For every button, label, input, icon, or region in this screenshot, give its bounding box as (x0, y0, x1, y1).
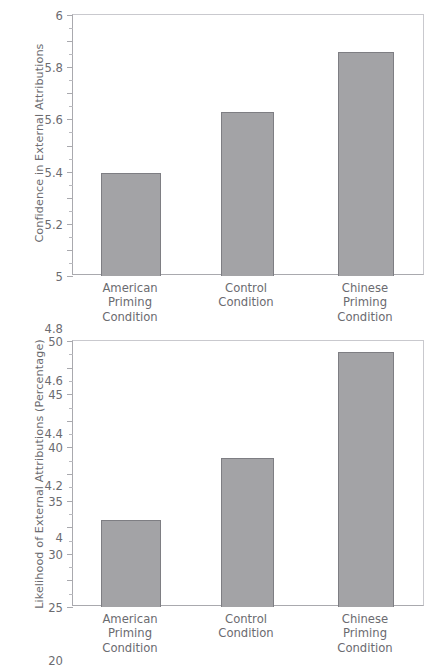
y-axis-minor-tick (69, 461, 73, 462)
y-axis-minor-tick (69, 132, 73, 133)
bar (101, 520, 161, 607)
y-axis-tick: 50 (67, 341, 73, 342)
y-axis-tick: 6 (67, 15, 73, 16)
y-axis-tick: 5.4 (67, 93, 73, 94)
y-axis-tick: 4 (67, 276, 73, 277)
x-axis-category-label: American Priming Condition (70, 612, 190, 655)
y-axis-tick: 5.8 (67, 41, 73, 42)
chart-confidence: Confidence in External Attributions 44.2… (0, 0, 444, 334)
y-axis-minor-tick (69, 514, 73, 515)
y-axis-minor-tick (69, 487, 73, 488)
bar (338, 352, 394, 607)
y-axis-tick-label: 5 (56, 270, 63, 284)
x-axis-category-label: Control Condition (186, 281, 306, 310)
y-axis-tick: 15 (67, 527, 73, 528)
bar (338, 52, 394, 276)
y-axis-minor-tick (69, 237, 73, 238)
y-axis-minor-tick (69, 28, 73, 29)
y-axis-tick: 10 (67, 554, 73, 555)
y-axis-tick-label: 30 (48, 548, 63, 562)
x-axis-category-label: Chinese Priming Condition (305, 612, 425, 655)
y-axis-minor-tick (69, 80, 73, 81)
y-axis-minor-tick (69, 408, 73, 409)
y-axis-tick: 40 (67, 394, 73, 395)
y-axis-tick: 4.2 (67, 250, 73, 251)
y-axis-minor-tick (69, 54, 73, 55)
y-axis-tick-label: 6 (56, 9, 63, 23)
y-axis-tick-label: 45 (48, 388, 63, 402)
y-axis-tick-label: 20 (48, 654, 63, 667)
y-axis-tick: 45 (67, 368, 73, 369)
x-axis-category-label: Control Condition (186, 612, 306, 641)
y-axis-tick: 4.4 (67, 224, 73, 225)
y-axis-minor-tick (69, 594, 73, 595)
x-axis-category-label: American Priming Condition (70, 281, 190, 324)
y-axis-minor-tick (69, 106, 73, 107)
y-axis-minor-tick (69, 354, 73, 355)
y-axis-tick-label: 5.8 (45, 61, 63, 75)
plot-area-confidence: 44.24.44.64.855.25.45.65.86 (72, 14, 424, 275)
y-axis-tick-label: 5.4 (45, 166, 63, 180)
y-axis-minor-tick (69, 211, 73, 212)
chart-likelihood: Likelihood of External Attributions (Per… (0, 334, 444, 667)
y-axis-tick: 5.2 (67, 119, 73, 120)
y-axis-tick: 4.8 (67, 172, 73, 173)
plot-area-likelihood: 05101520253035404550 (72, 340, 424, 606)
y-axis-tick: 35 (67, 421, 73, 422)
bar (221, 458, 274, 607)
y-axis-tick-label: 35 (48, 495, 63, 509)
y-axis-tick: 4.6 (67, 198, 73, 199)
y-axis-title-confidence: Confidence in External Attributions (33, 0, 46, 293)
y-axis-tick-label: 5.6 (45, 113, 63, 127)
y-axis-tick: 20 (67, 501, 73, 502)
y-axis-minor-tick (69, 567, 73, 568)
y-axis-minor-tick (69, 263, 73, 264)
y-axis-title-likelihood: Likelihood of External Attributions (Per… (33, 324, 46, 624)
y-axis-tick-label: 40 (48, 441, 63, 455)
y-axis-minor-tick (69, 159, 73, 160)
y-axis-tick: 5 (67, 580, 73, 581)
bar (101, 173, 161, 276)
y-axis-tick: 5 (67, 146, 73, 147)
bar (221, 112, 274, 276)
y-axis-minor-tick (69, 381, 73, 382)
y-axis-tick: 30 (67, 447, 73, 448)
figure-page: Confidence in External Attributions 44.2… (0, 0, 444, 667)
y-axis-tick: 0 (67, 607, 73, 608)
y-axis-tick: 5.6 (67, 67, 73, 68)
y-axis-tick-label: 25 (48, 601, 63, 615)
y-axis-tick-label: 5.2 (45, 218, 63, 232)
x-axis-category-label: Chinese Priming Condition (305, 281, 425, 324)
y-axis-minor-tick (69, 185, 73, 186)
y-axis-minor-tick (69, 541, 73, 542)
y-axis-tick-label: 50 (48, 335, 63, 349)
y-axis-tick: 25 (67, 474, 73, 475)
y-axis-minor-tick (69, 434, 73, 435)
